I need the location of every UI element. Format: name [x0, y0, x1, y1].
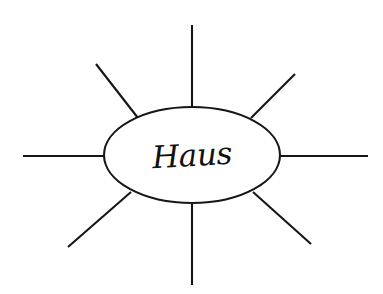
spoke-southwest-line: [68, 192, 131, 247]
center-node-ellipse: [104, 107, 280, 203]
spoke-northwest-line: [96, 64, 138, 118]
diagram-canvas: [0, 0, 383, 294]
spoke-southeast-line: [253, 192, 311, 244]
spoke-northeast-line: [251, 74, 295, 118]
cluster-diagram: Haus: [0, 0, 383, 294]
